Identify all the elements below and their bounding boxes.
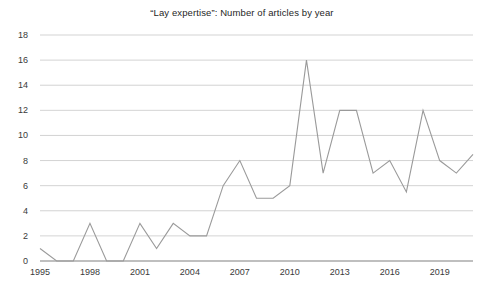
x-axis-tick-label: 1995	[23, 267, 57, 277]
y-axis-tick-label: 6	[6, 181, 28, 191]
x-axis-tick-label: 2016	[373, 267, 407, 277]
chart-canvas	[0, 0, 484, 291]
x-axis-tick-label: 2013	[323, 267, 357, 277]
y-axis-tick-label: 16	[6, 55, 28, 65]
x-axis-tick-label: 2001	[123, 267, 157, 277]
plot-area: 024681012141618 199519982001200420072010…	[0, 0, 484, 291]
y-axis-tick-label: 18	[6, 30, 28, 40]
x-axis-tick-label: 2019	[423, 267, 457, 277]
y-axis-tick-label: 12	[6, 105, 28, 115]
grid-lines	[40, 35, 473, 236]
x-axis-tick-label: 2007	[223, 267, 257, 277]
x-axis-tick-label: 1998	[73, 267, 107, 277]
y-axis-tick-label: 4	[6, 206, 28, 216]
y-axis-tick-label: 0	[6, 256, 28, 266]
y-axis-tick-label: 14	[6, 80, 28, 90]
y-axis-tick-label: 8	[6, 156, 28, 166]
x-axis-tick-label: 2010	[273, 267, 307, 277]
y-axis-tick-label: 10	[6, 130, 28, 140]
y-axis-tick-label: 2	[6, 231, 28, 241]
x-axis-tick-label: 2004	[173, 267, 207, 277]
chart-figure: “Lay expertise”: Number of articles by y…	[0, 0, 484, 291]
